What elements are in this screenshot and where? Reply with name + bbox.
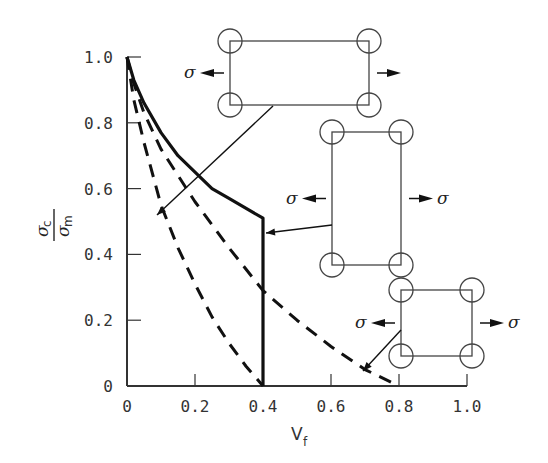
inset-wide: σ — [184, 29, 401, 117]
left-arrow-icon — [302, 195, 316, 203]
axes — [127, 57, 467, 386]
inset-rect — [332, 132, 401, 265]
x-tick-label: 0.2 — [181, 397, 210, 416]
sigma-right: σ — [437, 188, 449, 208]
x-axis-label: V f — [291, 424, 308, 449]
right-arrow-icon — [419, 195, 433, 203]
y-den-sub: m — [61, 215, 75, 227]
x-tick-label: 0.6 — [317, 397, 346, 416]
sigma-right: σ — [508, 312, 520, 332]
y-tick-label: 0 — [103, 377, 113, 396]
right-arrow-icon — [387, 69, 401, 77]
x-tick-label: 0.4 — [249, 397, 278, 416]
pointer-wide-to-inner-dashed — [157, 106, 273, 215]
inset-rect — [401, 290, 472, 356]
x-label-sub: f — [303, 435, 308, 449]
left-arrow-icon — [200, 69, 214, 77]
series — [127, 57, 399, 386]
right-arrow-icon — [490, 319, 504, 327]
pointer-line — [266, 225, 332, 233]
y-tick-label: 0.4 — [84, 245, 113, 264]
y-num-sub: c — [40, 220, 54, 227]
pointer-arrowhead-icon — [266, 228, 275, 235]
x-tick-label: 0.8 — [385, 397, 414, 416]
insets: σσσσσ — [157, 29, 520, 371]
y-tick-label: 1.0 — [84, 48, 113, 67]
pointer-square-to-middle-dashed — [363, 330, 401, 371]
inset-tall: σσ — [286, 120, 449, 277]
x-tick-label: 1.0 — [453, 397, 482, 416]
y-tick-label: 0.6 — [84, 180, 113, 199]
left-arrow-icon — [371, 319, 385, 327]
inset-square: σσ — [355, 278, 520, 368]
pointer-tall-to-solid-drop — [266, 225, 332, 235]
x-label-main: V — [291, 424, 303, 444]
inset-rect — [230, 41, 369, 105]
sigma-left: σ — [184, 62, 196, 82]
chart: 00.20.40.60.81.000.20.40.60.81.0 σσσσσ σ… — [0, 0, 548, 463]
x-tick-label: 0 — [122, 397, 132, 416]
sigma-left: σ — [355, 312, 367, 332]
y-tick-label: 0.8 — [84, 114, 113, 133]
series-line-0 — [127, 57, 263, 386]
y-axis-label: σ c σ m — [32, 209, 75, 241]
pointer-line — [157, 106, 273, 215]
y-tick-label: 0.2 — [84, 311, 113, 330]
sigma-left: σ — [286, 188, 298, 208]
